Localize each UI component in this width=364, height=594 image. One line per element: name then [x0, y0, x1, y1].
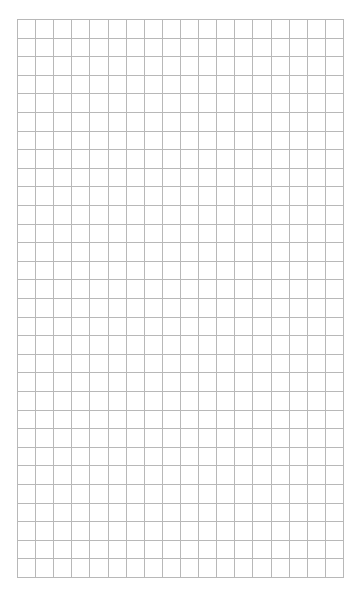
graph-paper-grid — [17, 19, 344, 578]
grid-lines — [17, 19, 344, 578]
